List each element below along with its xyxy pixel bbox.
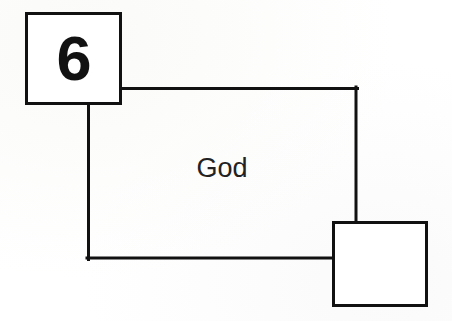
empty-box[interactable] [334, 223, 427, 306]
diagram-canvas: 6 God [0, 0, 452, 321]
numbered-box-six-label: 6 [25, 12, 122, 105]
region-outline-god-label: God [88, 148, 356, 188]
